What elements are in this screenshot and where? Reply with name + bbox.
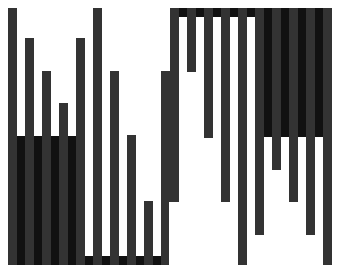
bar-block (289, 8, 298, 202)
fill-block (230, 8, 238, 17)
fill-block (17, 136, 25, 265)
bar-block (204, 8, 213, 138)
bar-block (187, 8, 196, 72)
bar-block (272, 8, 281, 170)
bar-block (306, 8, 315, 235)
bar-block (8, 8, 17, 265)
fill-block (102, 256, 110, 265)
bar-block (110, 71, 119, 265)
bar-block (238, 8, 247, 265)
bar-block (93, 8, 102, 265)
fill-block (136, 256, 144, 265)
fill-block (179, 8, 187, 17)
bar-block (161, 202, 169, 265)
fill-block (119, 256, 127, 265)
bar-block (59, 103, 68, 265)
fill-block (34, 136, 42, 265)
bar-block (127, 135, 136, 265)
fill-block (315, 8, 323, 137)
bar-block (42, 71, 51, 265)
bar-block (25, 38, 34, 265)
fill-block (281, 8, 289, 137)
bar-block (144, 201, 153, 265)
bar-block (323, 8, 332, 265)
bar-block (221, 8, 230, 202)
bar-block (255, 8, 264, 235)
fill-block (264, 8, 272, 137)
fill-block (298, 8, 306, 137)
fill-block (68, 136, 76, 265)
fill-block (153, 256, 161, 265)
fill-block (85, 256, 93, 265)
fill-block (196, 8, 204, 17)
bar-pattern-canvas (0, 0, 340, 273)
fill-block (247, 8, 255, 17)
fill-block (213, 8, 221, 17)
bar-block (170, 8, 179, 202)
bar-block (76, 38, 85, 265)
fill-block (51, 136, 59, 265)
